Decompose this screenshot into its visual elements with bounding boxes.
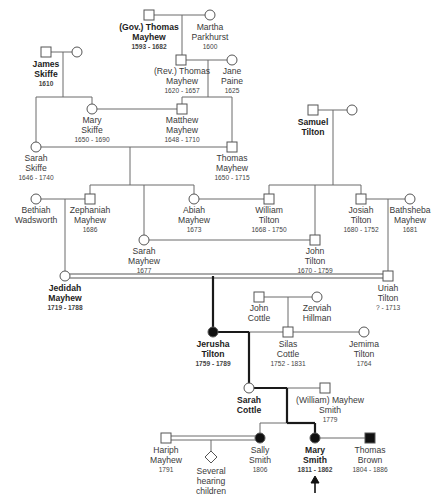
person-label-uriah-tilton: Uriah Tilton ? - 1713 [376, 283, 400, 313]
person-label-jedidah-mayhew: Jedidah Mayhew 1719 - 1788 [47, 283, 82, 313]
female-circle-icon[interactable] [31, 142, 41, 152]
person-label-josiah-tilton: Josiah Tilton 1680 - 1752 [343, 205, 378, 235]
person-label-sarah-cottle: Sarah Cottle [237, 395, 261, 415]
female-circle-icon[interactable] [87, 104, 97, 114]
person-label-zephaniah-mayhew: Zephaniah Mayhew 1686 [70, 205, 111, 235]
person-label-zerviah-hillman: Zerviah Hillman [303, 303, 332, 323]
person-label-abiah-mayhew: Abiah Mayhew 1673 [178, 205, 210, 235]
person-label-sarah-mayhew: Sarah Mayhew 1677 [128, 246, 160, 276]
female-circle-icon[interactable] [60, 271, 70, 281]
person-label-john-cottle: John Cottle [248, 303, 270, 323]
female-circle-icon[interactable] [347, 105, 357, 115]
person-label-gov-thomas-mayhew: (Gov.) Thomas Mayhew 1593 - 1682 [119, 22, 179, 52]
affected-female-circle-icon[interactable] [208, 327, 218, 337]
female-circle-icon[interactable] [205, 10, 215, 20]
person-label-sally-smith: Sally Smith 1806 [249, 445, 271, 475]
affected-female-circle-icon[interactable] [310, 433, 320, 443]
male-square-icon[interactable] [254, 292, 264, 302]
female-circle-icon[interactable] [359, 327, 369, 337]
male-square-icon[interactable] [283, 327, 293, 337]
person-label-william-mayhew-smith: (William) Mayhew Smith 1779 [296, 395, 364, 425]
male-square-icon[interactable] [264, 194, 274, 204]
pedigree-chart [0, 0, 440, 502]
male-square-icon[interactable] [227, 142, 237, 152]
person-label-william-tilton: William Tilton 1668 - 1750 [251, 205, 286, 235]
male-square-icon[interactable] [176, 55, 186, 65]
person-label-bethiah-wadsworth: Bethiah Wadsworth [15, 205, 58, 225]
consanguineous-marriage-line [70, 274, 383, 278]
female-circle-icon[interactable] [244, 383, 254, 393]
person-label-bathsheba-mayhew: Bathsheba Mayhew 1681 [389, 205, 430, 235]
person-label-mary-smith: Mary Smith 1811 - 1862 [298, 445, 333, 475]
male-square-icon[interactable] [383, 271, 393, 281]
female-circle-icon[interactable] [227, 55, 237, 65]
person-label-mary-skiffe: Mary Skiffe 1650 - 1690 [74, 115, 109, 145]
female-circle-icon[interactable] [31, 194, 41, 204]
female-circle-icon[interactable] [72, 47, 82, 57]
male-square-icon[interactable] [85, 194, 95, 204]
person-label-jane-paine: Jane Paine 1625 [221, 66, 243, 96]
male-square-icon[interactable] [310, 235, 320, 245]
person-label-james-skiffe: James Skiffe 1610 [33, 59, 60, 89]
person-label-several-hearing-children: Several hearing children [196, 466, 226, 496]
person-label-samuel-tilton: Samuel Tilton [298, 117, 329, 137]
person-label-jemima-tilton: Jemima Tilton 1764 [349, 339, 379, 369]
person-label-thomas-brown: Thomas Brown 1804 - 1886 [352, 445, 387, 475]
male-square-icon[interactable] [308, 105, 318, 115]
affected-male-square-icon[interactable] [365, 433, 375, 443]
person-label-john-tilton: John Tilton 1670 - 1759 [297, 246, 332, 276]
male-square-icon[interactable] [320, 383, 330, 393]
person-label-silas-cottle: Silas Cottle 1752 - 1831 [270, 339, 305, 369]
person-label-thomas-mayhew: Thomas Mayhew 1650 - 1715 [214, 153, 249, 183]
person-label-matthew-mayhew: Matthew Mayhew 1648 - 1710 [164, 115, 199, 145]
proband-arrow-icon [311, 476, 319, 493]
female-circle-icon[interactable] [312, 292, 322, 302]
female-circle-icon[interactable] [139, 235, 149, 245]
person-label-martha-parkhurst: Martha Parkhurst 1600 [192, 22, 229, 52]
person-label-hariph-mayhew: Hariph Mayhew 1791 [150, 445, 182, 475]
male-square-icon[interactable] [41, 47, 51, 57]
unknown-sex-diamond-icon[interactable] [205, 451, 217, 463]
affected-female-circle-icon[interactable] [255, 433, 265, 443]
person-label-sarah-skiffe: Sarah Skiffe 1646 - 1740 [18, 153, 53, 183]
male-square-icon[interactable] [356, 194, 366, 204]
person-label-jerusha-tilton: Jerusha Tilton 1759 - 1789 [195, 339, 230, 369]
female-circle-icon[interactable] [189, 194, 199, 204]
female-circle-icon[interactable] [405, 194, 415, 204]
person-label-rev-thomas-mayhew: (Rev.) Thomas Mayhew 1620 - 1657 [154, 66, 210, 96]
male-square-icon[interactable] [161, 433, 171, 443]
male-square-icon[interactable] [144, 10, 154, 20]
male-square-icon[interactable] [177, 104, 187, 114]
